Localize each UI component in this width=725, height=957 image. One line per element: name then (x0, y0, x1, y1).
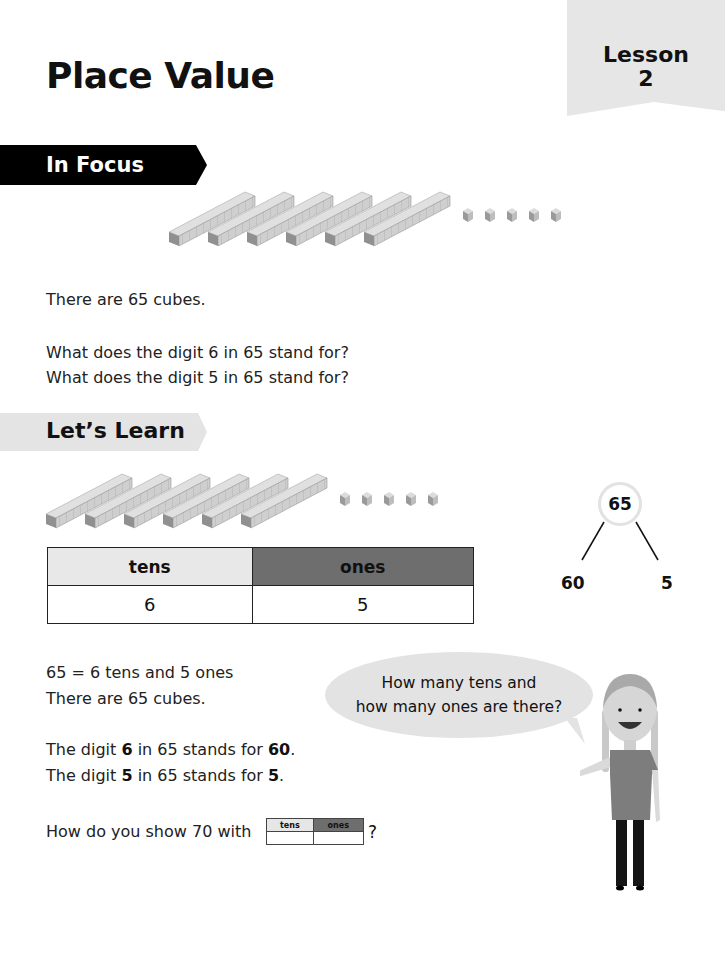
text: The digit (46, 740, 121, 759)
speech-line-1: How many tens and (382, 671, 537, 695)
mini-tens-cell (267, 832, 314, 845)
base-ten-blocks-in-focus (165, 188, 575, 248)
text: . (290, 740, 295, 759)
in-focus-question-2: What does the digit 5 in 65 stand for? (46, 365, 349, 390)
lesson-label: Lesson (567, 43, 725, 67)
tens-rods (46, 474, 327, 528)
number-bond: 65 60 5 (540, 470, 725, 610)
in-focus-banner: In Focus (0, 145, 207, 185)
lets-learn-banner: Let’s Learn (0, 413, 207, 451)
base-ten-blocks-lets-learn (42, 470, 452, 530)
ones-cubes (463, 208, 561, 222)
in-focus-question-1: What does the digit 6 in 65 stand for? (46, 340, 349, 365)
ones-header: ones (252, 548, 473, 586)
page-title: Place Value (46, 55, 274, 96)
digit-bold: 5 (121, 766, 132, 785)
text: . (279, 766, 284, 785)
girl-character-illustration (580, 670, 700, 895)
speech-bubble: How many tens and how many ones are ther… (325, 652, 593, 738)
value-bold: 60 (268, 740, 290, 759)
digit-meaning-2: The digit 5 in 65 stands for 5. (46, 763, 284, 788)
question-mark: ? (368, 822, 377, 842)
text: The digit (46, 766, 121, 785)
value-bold: 5 (268, 766, 279, 785)
question-70: How do you show 70 with (46, 819, 251, 844)
ones-value: 5 (252, 586, 473, 624)
speech-line-2: how many ones are there? (356, 695, 563, 719)
explanation-line-2: There are 65 cubes. (46, 686, 206, 711)
in-focus-heading: In Focus (46, 153, 144, 177)
tens-rods (169, 192, 450, 246)
mini-tens-header: tens (267, 819, 314, 832)
text: in 65 stands for (133, 740, 268, 759)
ones-cubes (340, 492, 438, 506)
lets-learn-heading: Let’s Learn (46, 418, 185, 443)
mini-place-value-table: tens ones (266, 818, 364, 845)
tens-value: 6 (48, 586, 253, 624)
lesson-number: 2 (567, 67, 725, 91)
tens-header: tens (48, 548, 253, 586)
digit-meaning-1: The digit 6 in 65 stands for 60. (46, 737, 295, 762)
digit-bold: 6 (121, 740, 132, 759)
number-bond-part-tens: 60 (561, 573, 585, 593)
lesson-tab: Lesson 2 (567, 0, 725, 116)
mini-ones-cell (313, 832, 363, 845)
explanation-line-1: 65 = 6 tens and 5 ones (46, 660, 233, 685)
mini-ones-header: ones (313, 819, 363, 832)
in-focus-statement: There are 65 cubes. (46, 287, 206, 312)
number-bond-part-ones: 5 (661, 573, 673, 593)
text: in 65 stands for (133, 766, 268, 785)
place-value-table: tens ones 6 5 (47, 547, 474, 624)
number-bond-whole: 65 (598, 482, 642, 526)
